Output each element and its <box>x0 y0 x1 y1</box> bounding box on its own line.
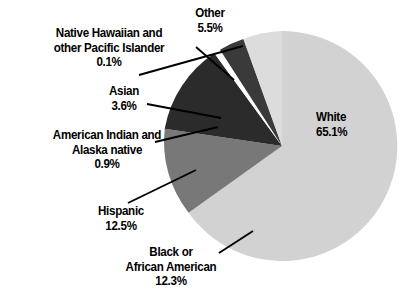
slice-label-white: White 65.1% <box>316 110 383 139</box>
slice-label-american-indian-alaska-native: American Indian and Alaska native 0.9% <box>15 128 200 172</box>
pie-chart-figure: Native Hawaiian and other Pacific Island… <box>0 0 415 304</box>
slice-label-hispanic: Hispanic 12.5% <box>41 204 201 233</box>
slice-label-other: Other 5.5% <box>173 6 247 35</box>
slice-label-asian: Asian 3.6% <box>47 84 202 113</box>
slice-label-black-african-american: Black or African American 12.3% <box>96 245 246 289</box>
